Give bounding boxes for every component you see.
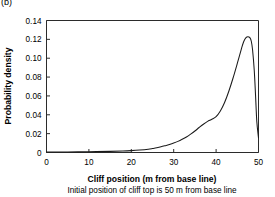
figure-panel: (b) 00.020.040.060.080.100.120.14 010203… (0, 0, 275, 197)
x-tick-label: 20 (127, 158, 137, 167)
y-tick-label: 0.10 (26, 54, 42, 63)
x-tick-label: 50 (254, 158, 264, 167)
y-tick-label: 0.02 (26, 130, 42, 139)
y-tick-label: 0.04 (26, 111, 42, 120)
y-tick-label: 0.12 (26, 35, 42, 44)
y-tick-label: 0.08 (26, 73, 42, 82)
y-tick-label: 0.14 (26, 17, 42, 26)
y-tick-label: 0.06 (26, 92, 42, 101)
x-tick-label: 0 (44, 158, 49, 167)
x-axis-subtitle: Initial position of cliff top is 50 m fr… (67, 186, 237, 195)
x-tick-label: 40 (212, 158, 222, 167)
panel-label: (b) (1, 0, 12, 7)
plot-frame (47, 21, 259, 153)
x-tick-label: 30 (169, 158, 179, 167)
y-axis-tick-labels: 00.020.040.060.080.100.120.14 (26, 17, 42, 158)
x-tick-label: 10 (84, 158, 94, 167)
probability-density-chart: 00.020.040.060.080.100.120.14 0102030405… (0, 0, 275, 197)
y-axis-ticks (47, 21, 51, 153)
y-axis-title: Probability density (3, 47, 13, 124)
density-curve (47, 37, 259, 152)
x-axis-title: Cliff position (m from base line) (88, 174, 217, 184)
x-axis-tick-labels: 01020304050 (44, 158, 263, 167)
y-tick-label: 0 (37, 149, 42, 158)
